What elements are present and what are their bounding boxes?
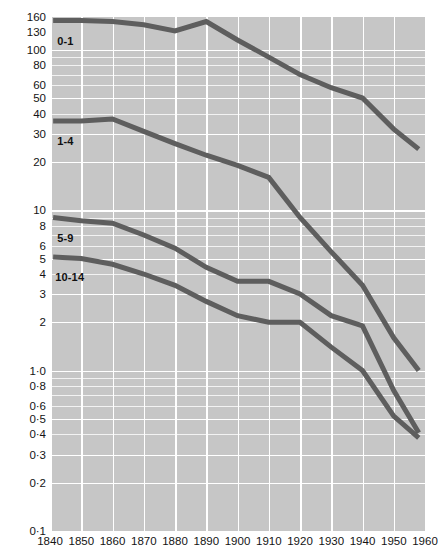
x-tick-label: 1870 [131,535,157,547]
chart-title [60,0,300,12]
y-tick-label: 0·6 [29,400,46,412]
y-tick-label: 160 [27,11,46,23]
y-tick-label: 2 [40,316,46,328]
x-tick-label: 1860 [100,535,126,547]
y-tick-label: 0·5 [29,413,46,425]
y-tick-label: 6 [40,240,46,252]
x-tick-label: 1910 [256,535,282,547]
y-tick-label: 0·2 [29,477,46,489]
y-tick-label: 130 [27,26,46,38]
y-tick-label: 80 [33,59,46,71]
x-tick-label: 1890 [194,535,220,547]
x-axis-ticks: 1840185018601870188018901900191019201930… [0,533,425,557]
x-tick-label: 1930 [319,535,345,547]
y-tick-label: 40 [33,108,46,120]
y-tick-label: 20 [33,156,46,168]
x-tick-label: 1940 [350,535,376,547]
data-lines [50,17,425,531]
series-label-5-9: 5-9 [57,232,74,244]
y-tick-label: 0·8 [29,380,46,392]
x-tick-label: 1960 [412,535,438,547]
series-label-0-1: 0-1 [57,35,74,47]
x-tick-label: 1840 [37,535,63,547]
x-tick-label: 1950 [381,535,407,547]
y-tick-label: 1·0 [29,365,46,377]
x-tick-label: 1850 [69,535,95,547]
plot-area: 0-11-45-910-14 [50,17,425,531]
x-tick-label: 1880 [162,535,188,547]
x-tick-label: 1900 [225,535,251,547]
y-tick-label: 60 [33,79,46,91]
y-tick-label: 0·4 [29,428,46,440]
series-label-1-4: 1-4 [57,135,74,147]
y-tick-label: 4 [40,268,46,280]
y-tick-label: 8 [40,220,46,232]
y-tick-label: 10 [33,204,46,216]
series-label-10-14: 10-14 [55,271,84,283]
x-tick-label: 1920 [287,535,313,547]
y-axis-ticks: 160130100806050403020108654321·00·80·60·… [0,17,46,531]
y-tick-label: 0·3 [29,449,46,461]
y-tick-label: 5 [40,253,46,265]
series-line-5-9 [53,218,419,433]
series-line-0-1 [53,21,419,150]
y-tick-label: 50 [33,92,46,104]
y-tick-label: 30 [33,128,46,140]
y-tick-label: 3 [40,288,46,300]
y-tick-label: 100 [27,44,46,56]
